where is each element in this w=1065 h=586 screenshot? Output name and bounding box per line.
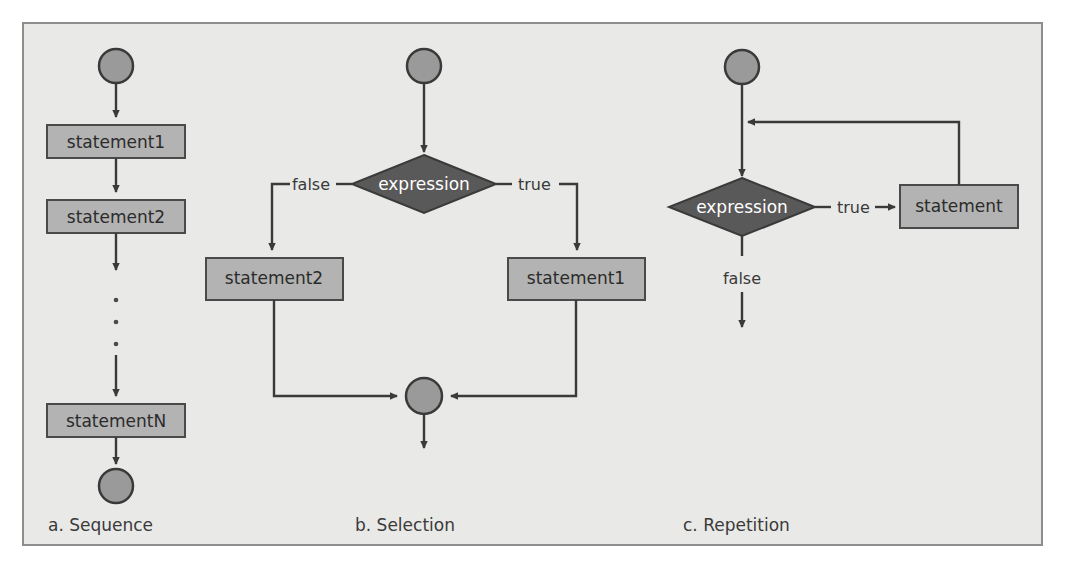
figure-frame bbox=[22, 22, 1043, 546]
figure-root: statement1 statement2 statementN a. Sequ… bbox=[0, 0, 1065, 586]
